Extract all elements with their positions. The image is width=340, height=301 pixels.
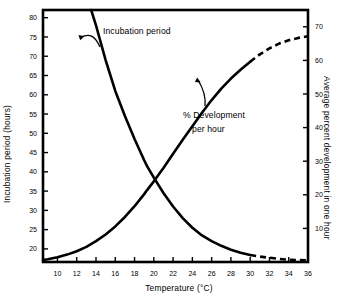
y2-tick-label: 30 <box>315 158 323 165</box>
x-tick-label: 26 <box>208 270 216 277</box>
y-tick-label: 50 <box>29 130 37 137</box>
x-tick-label: 10 <box>54 270 62 277</box>
x-tick-label: 34 <box>285 270 293 277</box>
chart-figure: Incubation period (hours) Average percen… <box>0 0 340 301</box>
x-tick-label: 16 <box>111 270 119 277</box>
annotation-leaders <box>79 35 206 106</box>
x-tick-label: 20 <box>150 270 158 277</box>
y-tick-label: 40 <box>29 168 37 175</box>
y-tick-label: 55 <box>29 111 37 118</box>
y2-tick-label: 70 <box>315 23 323 30</box>
x-tick-label: 32 <box>266 270 274 277</box>
leader-development <box>198 80 205 106</box>
data-curves <box>43 10 308 260</box>
x-tick-label: 36 <box>304 270 312 277</box>
series-line-dashed <box>250 36 308 62</box>
leader-development-arrowhead <box>195 78 201 83</box>
y2-tick-label: 60 <box>315 57 323 64</box>
series-line-dashed <box>250 255 308 260</box>
y-tick-label: 75 <box>29 34 37 41</box>
y-tick-label: 30 <box>29 207 37 214</box>
right-axis-tick-labels: 10203040506070 <box>315 23 323 232</box>
x-tick-label: 24 <box>188 270 196 277</box>
y-tick-label: 60 <box>29 91 37 98</box>
y2-tick-label: 20 <box>315 191 323 198</box>
x-tick-label: 30 <box>246 270 254 277</box>
y-tick-label: 65 <box>29 72 37 79</box>
y2-tick-label: 40 <box>315 124 323 131</box>
x-tick-label: 18 <box>131 270 139 277</box>
y-tick-label: 35 <box>29 188 37 195</box>
x-tick-label: 22 <box>169 270 177 277</box>
leader-incubation <box>81 35 100 47</box>
series-line-solid <box>43 62 250 260</box>
plot-canvas: 1012141618202224262830323436 20253035404… <box>0 0 340 301</box>
x-axis-tick-labels: 1012141618202224262830323436 <box>54 270 312 277</box>
y-tick-label: 45 <box>29 149 37 156</box>
series-line-solid <box>91 10 250 255</box>
x-tick-label: 12 <box>73 270 81 277</box>
y2-tick-label: 10 <box>315 225 323 232</box>
x-tick-label: 14 <box>92 270 100 277</box>
y-tick-label: 25 <box>29 226 37 233</box>
x-tick-label: 28 <box>227 270 235 277</box>
left-axis-tick-labels: 20253035404550556065707580 <box>29 14 37 252</box>
y-tick-label: 80 <box>29 14 37 21</box>
y2-tick-label: 50 <box>315 91 323 98</box>
y-tick-label: 70 <box>29 53 37 60</box>
y-tick-label: 20 <box>29 245 37 252</box>
